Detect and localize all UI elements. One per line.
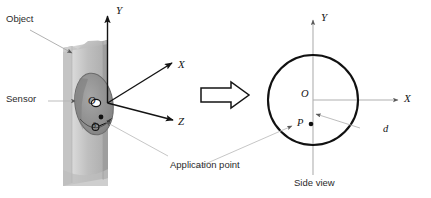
x-axis-line-left [108,63,173,103]
object-label: Object [6,14,33,24]
y-axis-label-right: Y [321,12,327,23]
block-arrow-right-icon [201,82,249,108]
delta-label: δ [92,122,96,130]
distance-d-label: d [383,124,388,135]
application-point-label: Application point [170,160,240,170]
application-point-dot-left [99,115,104,120]
figure-canvas: Object Sensor Y X Z O δ Application poin… [0,0,431,198]
left-axes-group [108,16,174,120]
application-point-leader-left [106,122,168,156]
z-axis-label-left: Z [178,116,184,127]
point-p-dot [309,122,314,127]
sensor-label: Sensor [6,94,36,104]
x-axis-label-right: X [404,93,411,104]
y-axis-label-left: Y [116,5,122,16]
origin-label-left: O [88,96,96,107]
z-axis-line-left [108,103,174,120]
object-leader [30,30,72,53]
center-label-right: O [301,89,309,100]
side-view-caption: Side view [294,178,335,188]
x-axis-label-left: X [178,59,185,70]
point-p-label: P [297,118,303,129]
